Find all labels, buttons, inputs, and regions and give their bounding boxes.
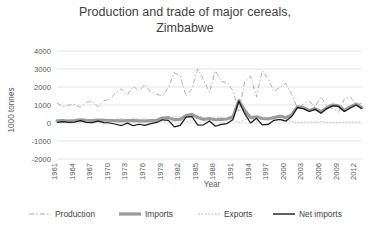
x-tick-2012: 2012 — [349, 163, 358, 180]
y-tick--2000: -2000 — [32, 155, 51, 164]
x-tick-1967: 1967 — [85, 163, 94, 180]
y-axis-title: 1000 tonnes — [7, 87, 16, 132]
series-line-production — [57, 69, 362, 112]
y-tick-4000: 4000 — [34, 47, 51, 56]
series-group — [57, 69, 362, 127]
y-tick-2000: 2000 — [34, 83, 51, 92]
x-tick-1964: 1964 — [68, 163, 77, 180]
y-axis-tick-labels: 40003000200010000-1000-2000 — [32, 47, 51, 164]
x-axis-title: Year — [204, 180, 221, 189]
x-tick-2000: 2000 — [279, 163, 288, 180]
x-tick-2006: 2006 — [314, 163, 323, 180]
y-tick-3000: 3000 — [34, 65, 51, 74]
x-tick-1979: 1979 — [156, 163, 165, 180]
y-tick-1000: 1000 — [34, 101, 51, 110]
x-tick-1985: 1985 — [191, 163, 200, 180]
x-tick-1991: 1991 — [226, 163, 235, 180]
chart-legend: ProductionImportsExportsNet imports — [29, 209, 342, 219]
legend-label-imports[interactable]: Imports — [145, 209, 173, 219]
x-tick-1997: 1997 — [261, 163, 270, 180]
chart-title-line-1: Production and trade of major cereals, — [0, 4, 370, 20]
gridlines-group — [57, 51, 362, 159]
legend-label-exports[interactable]: Exports — [224, 209, 252, 219]
chart-title-line-2: Zimbabwe — [0, 20, 370, 36]
x-tick-1988: 1988 — [208, 163, 217, 180]
y-tick--1000: -1000 — [32, 137, 51, 146]
chart-container: Production and trade of major cereals, Z… — [0, 0, 370, 240]
legend-label-net-imports[interactable]: Net imports — [299, 209, 342, 219]
x-tick-1973: 1973 — [120, 163, 129, 180]
x-tick-1970: 1970 — [103, 163, 112, 180]
legend-label-production[interactable]: Production — [55, 209, 95, 219]
x-tick-1982: 1982 — [173, 163, 182, 180]
x-tick-1961: 1961 — [50, 163, 59, 180]
x-tick-1976: 1976 — [138, 163, 147, 180]
cereals-line-chart: 40003000200010000-1000-2000 196119641967… — [0, 0, 370, 240]
x-tick-2003: 2003 — [296, 163, 305, 180]
x-tick-2009: 2009 — [332, 163, 341, 180]
x-axis-tick-labels: 1961196419671970197319761979198219851988… — [50, 163, 358, 180]
x-tick-1994: 1994 — [244, 163, 253, 180]
chart-title: Production and trade of major cereals, Z… — [0, 4, 370, 36]
y-tick-0: 0 — [47, 119, 51, 128]
